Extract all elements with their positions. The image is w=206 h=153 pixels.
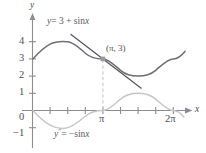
- lower-curve-label-eq: = −: [61, 129, 74, 139]
- x-axis-label: x: [195, 105, 199, 115]
- x-axis-arrow: [185, 108, 193, 114]
- plot-area: [0, 0, 206, 153]
- y-tick-label-1: 1: [19, 87, 24, 98]
- y-axis-label: y: [30, 1, 34, 11]
- axes-group: [22, 13, 193, 148]
- y-tick-label-minus-1: −1: [13, 128, 24, 139]
- lower-curve-label-arg: x: [85, 129, 89, 139]
- point-label: (π, 3): [106, 44, 126, 53]
- y-tick-label-4: 4: [19, 36, 24, 47]
- upper-curve-label: y= 3 + sinx: [47, 17, 89, 27]
- upper-curve-label-eq: = 3 +: [51, 16, 71, 26]
- lower-curve-label: y″= −sinx: [54, 130, 90, 140]
- y-axis-arrow: [30, 13, 36, 20]
- figure-canvas: y x 4 3 2 1 0 −1 π 2π y= 3 + sinx (π, 3)…: [0, 0, 206, 153]
- y-tick-label-3: 3: [19, 53, 24, 64]
- upper-curve-label-arg: x: [85, 16, 89, 26]
- upper-curve-label-fn: sin: [74, 16, 85, 26]
- lower-curve-label-fn: sin: [74, 129, 85, 139]
- y-tick-label-2: 2: [19, 70, 24, 81]
- y-tick-label-0: 0: [19, 112, 24, 123]
- x-tick-label-pi: π: [99, 114, 104, 125]
- x-tick-label-2pi: 2π: [165, 114, 176, 125]
- inflection-point-marker: [101, 57, 106, 62]
